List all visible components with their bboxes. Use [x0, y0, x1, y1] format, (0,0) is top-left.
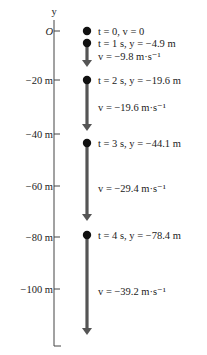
velocity-label: v = −19.6 m·s⁻¹ [98, 102, 166, 113]
axis-tick-label: −100 m [21, 284, 53, 295]
ball-position-dot [83, 231, 91, 239]
position-label: t = 2 s, y = −19.6 m [98, 75, 181, 86]
axis-tick-label: O [45, 26, 53, 37]
ball-position-dot [83, 139, 91, 147]
velocity-label: v = −9.8 m·s⁻¹ [98, 51, 161, 62]
arrow-head-icon [82, 328, 92, 335]
ball-position-dot [83, 27, 91, 35]
velocity-arrows: v = −9.8 m·s⁻¹v = −19.6 m·s⁻¹v = −29.4 m… [82, 43, 166, 335]
arrow-head-icon [82, 214, 92, 221]
axis-label: y [51, 6, 57, 17]
ball-position-dot [83, 39, 91, 47]
position-label: t = 1 s, y = −4.9 m [98, 38, 176, 49]
axis-tick-label: −20 m [26, 75, 53, 86]
position-label: t = 4 s, y = −78.4 m [98, 230, 181, 241]
velocity-label: v = −29.4 m·s⁻¹ [98, 183, 166, 194]
velocity-label: v = −39.2 m·s⁻¹ [98, 286, 166, 297]
ball-position-dot [83, 76, 91, 84]
arrow-head-icon [82, 60, 92, 67]
position-label: t = 0, v = 0 [98, 26, 144, 37]
arrow-head-icon [82, 124, 92, 131]
position-label: t = 3 s, y = −44.1 m [98, 138, 181, 149]
free-fall-diagram: yO−20 m−40 m−60 m−80 m−100 m v = −9.8 m·… [0, 0, 207, 355]
axis-tick-label: −60 m [26, 181, 53, 192]
axis-tick-label: −40 m [26, 129, 53, 140]
axis-tick-label: −80 m [26, 232, 53, 243]
y-axis: yO−20 m−40 m−60 m−80 m−100 m [21, 6, 61, 346]
